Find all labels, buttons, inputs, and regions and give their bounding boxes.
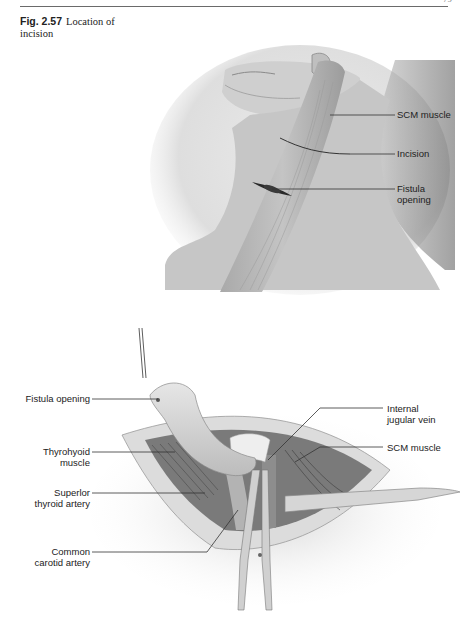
surgical-field-illustration [0, 0, 464, 625]
label-scm-muscle-bottom: SCM muscle [387, 442, 441, 453]
label-common-carotid-artery: Commoncarotid artery [10, 546, 90, 568]
label-internal-jugular-vein: Internaljugular vein [387, 403, 436, 425]
label-superior-thyroid-artery: Superlorthyroid artery [10, 487, 90, 509]
label-thyrohyoid-muscle: Thyrohyoidmuscle [10, 446, 90, 468]
label-fistula-opening-bottom: Fistula opening [10, 393, 90, 404]
